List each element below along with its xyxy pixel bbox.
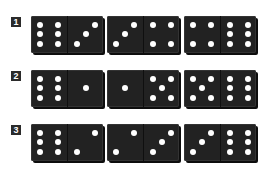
pip-dot xyxy=(227,85,233,91)
pip-dot xyxy=(37,41,43,47)
pip-dot xyxy=(159,85,165,91)
pip-dot xyxy=(190,22,196,28)
pip-dot xyxy=(199,139,205,145)
pip-dot xyxy=(227,22,233,28)
pip-dot xyxy=(55,130,61,136)
domino-right-half xyxy=(143,16,180,53)
domino-right-half xyxy=(67,70,104,107)
pip-dot xyxy=(227,149,233,155)
pip-dot xyxy=(131,22,137,28)
pip-dot xyxy=(199,85,205,91)
domino-left-half xyxy=(184,16,220,53)
pip-dot xyxy=(227,95,233,101)
pip-dot xyxy=(245,76,251,82)
domino-right-half xyxy=(220,124,257,161)
pip-dot xyxy=(208,22,214,28)
pip-dot xyxy=(55,139,61,145)
pip-dot xyxy=(190,95,196,101)
pip-dot xyxy=(168,95,174,101)
pip-dot xyxy=(190,149,196,155)
pip-dot xyxy=(37,76,43,82)
pip-dot xyxy=(168,76,174,82)
pip-dot xyxy=(131,130,137,136)
pip-dot xyxy=(55,85,61,91)
domino xyxy=(107,16,179,53)
domino-left-half xyxy=(31,16,67,53)
domino-right-half xyxy=(67,16,104,53)
domino xyxy=(31,16,103,53)
pip-dot xyxy=(37,149,43,155)
pip-dot xyxy=(55,31,61,37)
domino-left-half xyxy=(31,124,67,161)
pip-dot xyxy=(150,41,156,47)
pip-dot xyxy=(190,76,196,82)
pip-dot xyxy=(245,139,251,145)
domino-left-half xyxy=(184,124,220,161)
pip-dot xyxy=(92,22,98,28)
domino-left-half xyxy=(184,70,220,107)
pip-dot xyxy=(245,85,251,91)
pip-dot xyxy=(159,139,165,145)
domino-left-half xyxy=(107,124,143,161)
domino-right-half xyxy=(143,70,180,107)
domino-left-half xyxy=(107,16,143,53)
pip-dot xyxy=(227,31,233,37)
domino-right-half xyxy=(143,124,180,161)
pip-dot xyxy=(37,85,43,91)
pip-dot xyxy=(83,31,89,37)
pip-dot xyxy=(245,130,251,136)
domino xyxy=(107,124,179,161)
pip-dot xyxy=(55,149,61,155)
pip-dot xyxy=(83,85,89,91)
domino xyxy=(31,124,103,161)
pip-dot xyxy=(168,22,174,28)
pip-dot xyxy=(74,149,80,155)
pip-dot xyxy=(37,22,43,28)
puzzle-row-1: 1 xyxy=(0,16,269,56)
pip-dot xyxy=(113,41,119,47)
pip-dot xyxy=(150,149,156,155)
pip-dot xyxy=(55,41,61,47)
domino-right-half xyxy=(220,16,257,53)
pip-dot xyxy=(245,41,251,47)
domino-right-half xyxy=(67,124,104,161)
pip-dot xyxy=(168,41,174,47)
pip-dot xyxy=(245,149,251,155)
row-number-badge: 2 xyxy=(11,71,21,81)
pip-dot xyxy=(190,41,196,47)
pip-dot xyxy=(150,22,156,28)
pip-dot xyxy=(55,76,61,82)
pip-dot xyxy=(122,31,128,37)
pip-dot xyxy=(37,31,43,37)
pip-dot xyxy=(150,95,156,101)
pip-dot xyxy=(74,41,80,47)
row-number-badge: 3 xyxy=(11,125,21,135)
pip-dot xyxy=(208,95,214,101)
domino xyxy=(107,70,179,107)
domino xyxy=(184,16,256,53)
pip-dot xyxy=(37,139,43,145)
pip-dot xyxy=(208,130,214,136)
pip-dot xyxy=(227,130,233,136)
domino xyxy=(31,70,103,107)
pip-dot xyxy=(245,95,251,101)
pip-dot xyxy=(55,95,61,101)
domino-left-half xyxy=(107,70,143,107)
puzzle-row-3: 3 xyxy=(0,124,269,164)
domino xyxy=(184,124,256,161)
pip-dot xyxy=(245,22,251,28)
pip-dot xyxy=(227,139,233,145)
pip-dot xyxy=(122,85,128,91)
domino-right-half xyxy=(220,70,257,107)
pip-dot xyxy=(245,31,251,37)
pip-dot xyxy=(168,130,174,136)
pip-dot xyxy=(227,41,233,47)
pip-dot xyxy=(55,22,61,28)
pip-dot xyxy=(208,41,214,47)
row-number-badge: 1 xyxy=(11,17,21,27)
domino-left-half xyxy=(31,70,67,107)
pip-dot xyxy=(113,149,119,155)
pip-dot xyxy=(37,95,43,101)
pip-dot xyxy=(208,76,214,82)
pip-dot xyxy=(227,76,233,82)
